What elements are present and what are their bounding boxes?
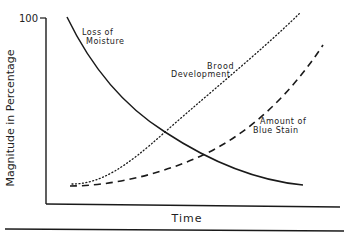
chart: 100 Magnitude in Percentage Time Loss of… bbox=[0, 0, 344, 238]
label-brood-line2: Development bbox=[171, 70, 230, 79]
label-stain-line1: Amount of bbox=[260, 117, 306, 126]
label-moisture-line1: Loss of bbox=[82, 28, 113, 37]
x-axis-label: Time bbox=[171, 212, 203, 225]
label-stain-line2: Blue Stain bbox=[253, 126, 299, 135]
y-tick-label-100: 100 bbox=[19, 13, 38, 24]
label-moisture-line2: Moisture bbox=[86, 37, 124, 46]
chart-svg: 100 Magnitude in Percentage Time Loss of… bbox=[0, 0, 344, 238]
y-axis-label: Magnitude in Percentage bbox=[4, 49, 17, 186]
series-amount-of-blue-stain bbox=[70, 45, 323, 186]
x-axis bbox=[46, 204, 340, 207]
bottom-rule bbox=[5, 229, 344, 231]
